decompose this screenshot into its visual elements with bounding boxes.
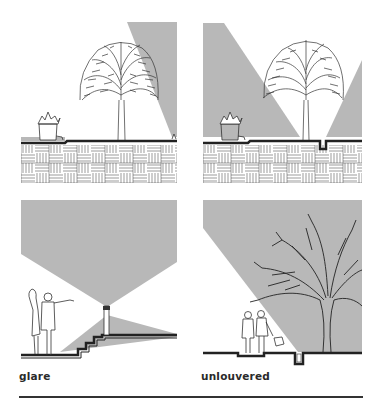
panel-bottom-right	[203, 200, 362, 364]
in-grade-fixture-icon	[297, 354, 301, 362]
planter-icon	[38, 112, 63, 140]
light-beam	[127, 22, 177, 137]
light-beam	[203, 200, 362, 352]
panel-top-right	[203, 23, 362, 183]
light-beam-left	[203, 23, 300, 137]
divider-rule	[19, 396, 363, 398]
lighting-diagram	[0, 0, 380, 406]
panel-top-left	[21, 22, 177, 183]
light-beam-lower	[60, 315, 177, 352]
people-icon	[29, 289, 74, 355]
brick-paving	[21, 145, 177, 183]
bollard-light-icon	[103, 306, 110, 335]
light-beam-upper	[21, 200, 177, 307]
caption-glare: glare	[19, 370, 51, 382]
light-beam-right	[326, 60, 362, 137]
caption-unlouvered: unlouvered	[201, 370, 270, 382]
panel-bottom-left	[21, 200, 177, 358]
brick-paving	[203, 145, 362, 183]
